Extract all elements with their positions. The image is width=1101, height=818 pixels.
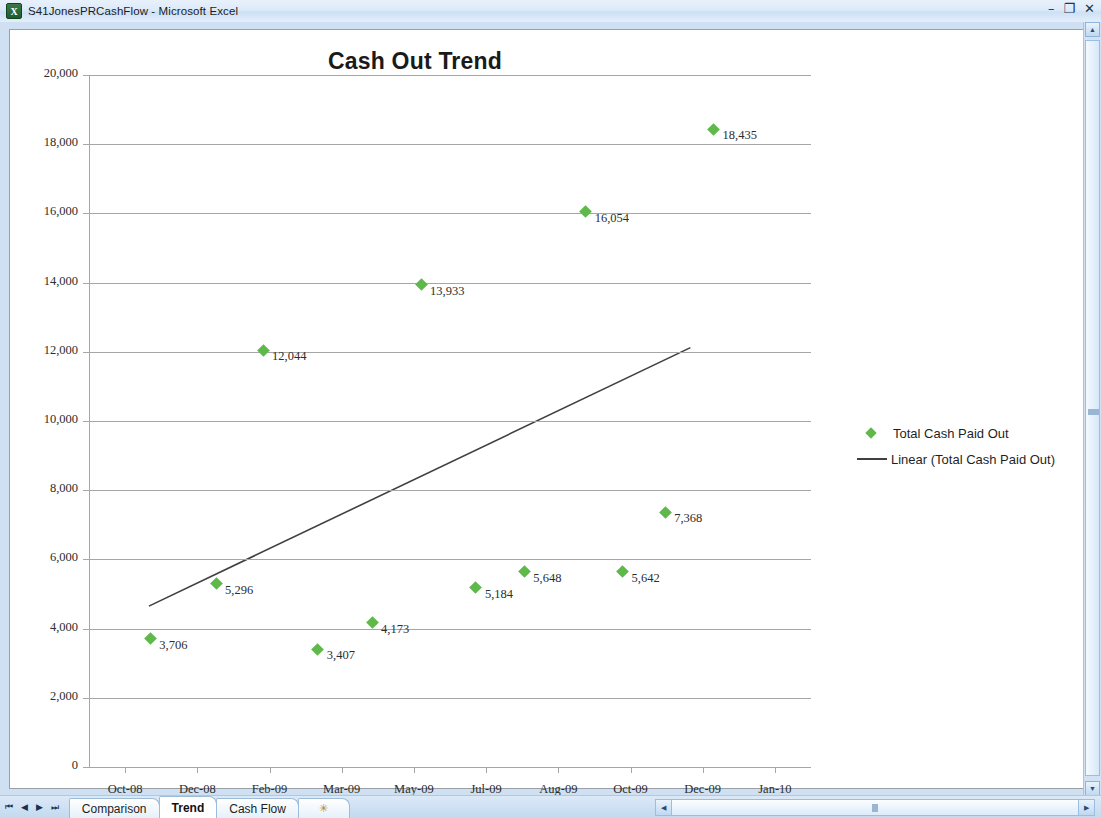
x-axis-tick [342, 767, 343, 773]
legend-line-icon [857, 458, 887, 460]
data-point-label: 12,044 [272, 349, 306, 364]
scroll-down-icon[interactable]: ▼ [1085, 781, 1100, 796]
data-point-label: 18,435 [723, 128, 757, 143]
gridline [89, 421, 811, 422]
data-point-label: 7,368 [674, 511, 702, 526]
plot-area: 02,0004,0006,0008,00010,00012,00014,0001… [10, 30, 1084, 788]
y-axis-label: 14,000 [16, 274, 78, 289]
next-sheet-icon[interactable]: ▶ [36, 802, 43, 812]
y-axis-tick [83, 144, 89, 145]
vertical-scrollbar[interactable]: ▲ ▼ [1083, 22, 1101, 796]
data-point-label: 5,296 [225, 583, 253, 598]
worksheet-area: Cash Out Trend 02,0004,0006,0008,00010,0… [0, 22, 1101, 796]
y-axis-label: 0 [16, 758, 78, 773]
sheet-nav-buttons: ⏮ ◀ ▶ ⏭ [5, 802, 59, 813]
scroll-left-icon[interactable]: ◀ [656, 800, 671, 815]
y-axis-tick [83, 698, 89, 699]
y-axis-label: 20,000 [16, 66, 78, 81]
data-point-label: 13,933 [430, 284, 464, 299]
y-axis-tick [83, 283, 89, 284]
x-axis-tick [486, 767, 487, 773]
sheet-tab-cash-flow[interactable]: Cash Flow [216, 798, 299, 818]
gridline [89, 559, 811, 560]
prev-sheet-icon[interactable]: ◀ [21, 802, 28, 812]
y-axis-tick [83, 421, 89, 422]
x-axis-tick [197, 767, 198, 773]
legend-marker-icon [865, 427, 876, 438]
gridline [89, 629, 811, 630]
y-axis-label: 8,000 [16, 481, 78, 496]
y-axis-tick [83, 213, 89, 214]
x-axis-tick [703, 767, 704, 773]
last-sheet-icon[interactable]: ⏭ [51, 802, 59, 813]
y-axis-label: 18,000 [16, 135, 78, 150]
horizontal-scroll-thumb[interactable] [671, 800, 1079, 815]
first-sheet-icon[interactable]: ⏮ [5, 802, 13, 813]
y-axis-label: 12,000 [16, 343, 78, 358]
scroll-right-icon[interactable]: ▶ [1079, 800, 1094, 815]
legend-item-trendline[interactable]: Linear (Total Cash Paid Out) [855, 446, 1085, 472]
x-axis-tick [270, 767, 271, 773]
horizontal-scrollbar[interactable]: ◀ ▶ [655, 799, 1095, 816]
legend-label-series: Total Cash Paid Out [893, 426, 1009, 441]
legend-label-trendline: Linear (Total Cash Paid Out) [891, 452, 1055, 467]
window-controls: – ❐ ✕ [1048, 2, 1095, 16]
insert-sheet-icon[interactable]: ✳ [298, 798, 350, 818]
minimize-button[interactable]: – [1048, 2, 1055, 16]
h-scroll-grip-icon [872, 804, 878, 812]
y-axis-tick [83, 75, 89, 76]
chart-legend: Total Cash Paid Out Linear (Total Cash P… [855, 420, 1085, 472]
gridline [89, 75, 811, 76]
y-axis-tick [83, 629, 89, 630]
window-title: S41JonesPRCashFlow - Microsoft Excel [28, 5, 238, 17]
data-point-label: 5,648 [533, 571, 561, 586]
y-axis-label: 10,000 [16, 412, 78, 427]
excel-icon: X [6, 3, 22, 19]
y-axis-tick [83, 352, 89, 353]
sheet-tab-bar: ⏮ ◀ ▶ ⏭ ComparisonTrendCash Flow✳ ◀ ▶ [0, 795, 1101, 818]
gridline [89, 698, 811, 699]
gridline [89, 213, 811, 214]
gridline [89, 352, 811, 353]
x-axis-tick [631, 767, 632, 773]
sheet-tabs: ComparisonTrendCash Flow✳ [69, 796, 349, 818]
data-point-label: 4,173 [381, 622, 409, 637]
gridline [89, 490, 811, 491]
data-point-label: 3,706 [159, 638, 187, 653]
y-axis-tick [83, 767, 89, 768]
scroll-grip-icon [1088, 409, 1099, 415]
cash-out-trend-chart: Cash Out Trend 02,0004,0006,0008,00010,0… [10, 30, 1084, 788]
restore-button[interactable]: ❐ [1063, 2, 1075, 16]
x-axis-tick [414, 767, 415, 773]
y-axis-tick [83, 559, 89, 560]
sheet-tab-comparison[interactable]: Comparison [69, 798, 160, 818]
sheet-tab-trend[interactable]: Trend [159, 796, 218, 818]
gridline [89, 144, 811, 145]
y-axis-label: 4,000 [16, 620, 78, 635]
y-axis-label: 2,000 [16, 689, 78, 704]
legend-item-series[interactable]: Total Cash Paid Out [855, 420, 1085, 446]
title-bar: X S41JonesPRCashFlow - Microsoft Excel –… [0, 0, 1101, 23]
data-point-label: 5,184 [485, 587, 513, 602]
close-button[interactable]: ✕ [1084, 2, 1095, 16]
scroll-up-icon[interactable]: ▲ [1085, 22, 1100, 37]
excel-window: X S41JonesPRCashFlow - Microsoft Excel –… [0, 0, 1101, 818]
x-axis-tick [775, 767, 776, 773]
data-point-label: 3,407 [327, 648, 355, 663]
vertical-scroll-thumb[interactable] [1085, 40, 1100, 776]
y-axis-label: 6,000 [16, 550, 78, 565]
data-point-label: 5,642 [632, 571, 660, 586]
x-axis-tick [125, 767, 126, 773]
chart-object[interactable]: Cash Out Trend 02,0004,0006,0008,00010,0… [9, 29, 1085, 789]
x-axis-tick [558, 767, 559, 773]
y-axis-tick [83, 490, 89, 491]
y-axis-label: 16,000 [16, 204, 78, 219]
data-point-label: 16,054 [595, 211, 629, 226]
